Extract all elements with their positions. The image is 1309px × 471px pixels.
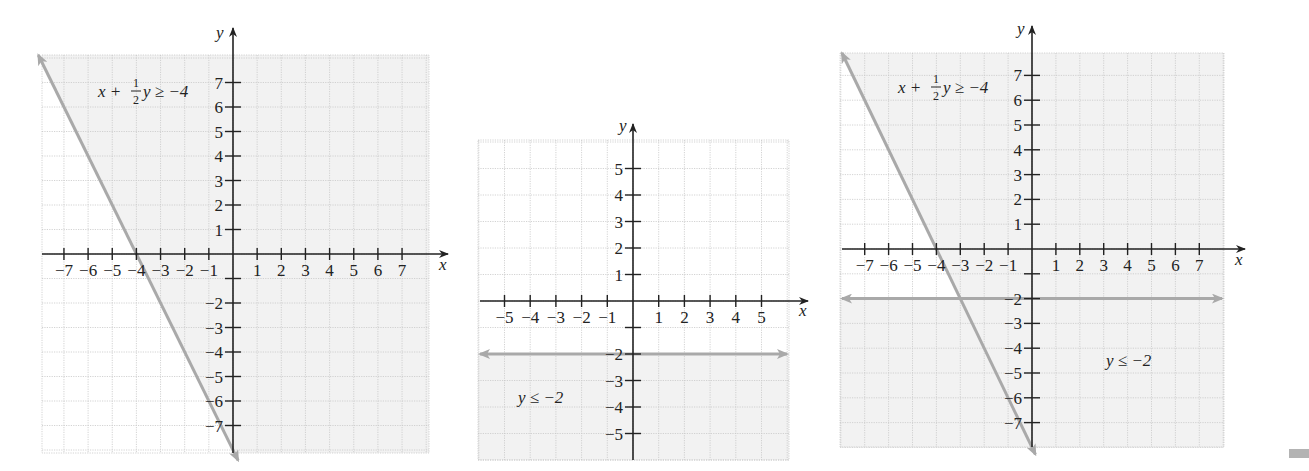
svg-text:−4: −4 <box>127 261 146 280</box>
svg-text:−4: −4 <box>205 343 224 362</box>
svg-text:−3: −3 <box>152 261 170 280</box>
svg-text:1: 1 <box>654 308 663 327</box>
svg-text:−4: −4 <box>605 398 624 417</box>
svg-text:−5: −5 <box>605 425 623 444</box>
svg-text:5: 5 <box>615 160 624 179</box>
g1-label-frac-den: 2 <box>133 93 139 107</box>
svg-text:5: 5 <box>1147 256 1156 275</box>
svg-text:−2: −2 <box>573 308 591 327</box>
svg-text:−7: −7 <box>55 261 74 280</box>
svg-text:6: 6 <box>1014 91 1023 110</box>
svg-text:7: 7 <box>1195 256 1204 275</box>
svg-text:−5: −5 <box>903 256 921 275</box>
svg-text:3: 3 <box>301 261 310 280</box>
g1-label-tail: y ≥ −4 <box>141 82 189 101</box>
svg-text:5: 5 <box>1014 116 1023 135</box>
svg-text:6: 6 <box>1171 256 1180 275</box>
svg-text:−5: −5 <box>103 261 121 280</box>
g2-x-axis-label: x <box>798 301 807 320</box>
svg-text:−6: −6 <box>205 392 223 411</box>
svg-text:−4: −4 <box>521 308 540 327</box>
g1-label-frac-num: 1 <box>133 76 139 90</box>
svg-text:3: 3 <box>706 308 715 327</box>
svg-text:1: 1 <box>215 221 224 240</box>
svg-text:−2: −2 <box>605 345 623 364</box>
svg-text:4: 4 <box>1014 141 1023 160</box>
svg-text:7: 7 <box>398 261 407 280</box>
svg-text:−3: −3 <box>205 319 223 338</box>
svg-text:2: 2 <box>215 196 224 215</box>
g1-x-axis-label: x <box>438 255 447 274</box>
g2-inequality-label: y ≤ −2 <box>516 388 564 407</box>
svg-text:4: 4 <box>215 147 224 166</box>
svg-text:4: 4 <box>615 186 624 205</box>
svg-text:−5: −5 <box>205 368 223 387</box>
svg-text:−1: −1 <box>999 256 1017 275</box>
svg-text:4: 4 <box>1123 256 1132 275</box>
svg-text:5: 5 <box>215 123 224 142</box>
g1-y-axis-label: y <box>214 23 224 42</box>
g3-inequality-label-2: y ≤ −2 <box>1104 351 1152 370</box>
g2-y-axis-label: y <box>617 116 627 135</box>
svg-text:1: 1 <box>1052 256 1061 275</box>
svg-text:−4: −4 <box>927 256 946 275</box>
svg-text:−7: −7 <box>1004 414 1023 433</box>
svg-text:4: 4 <box>732 308 741 327</box>
svg-text:−5: −5 <box>495 308 513 327</box>
svg-text:5: 5 <box>757 308 766 327</box>
svg-text:6: 6 <box>374 261 383 280</box>
svg-text:−1: −1 <box>598 308 616 327</box>
g1-label-main: x + <box>97 82 121 101</box>
svg-text:7: 7 <box>215 74 224 93</box>
svg-text:3: 3 <box>1099 256 1108 275</box>
svg-text:−2: −2 <box>205 294 223 313</box>
svg-text:1: 1 <box>615 266 624 285</box>
svg-text:4: 4 <box>325 261 334 280</box>
svg-text:7: 7 <box>1014 66 1023 85</box>
svg-text:6: 6 <box>215 98 224 117</box>
svg-text:2: 2 <box>277 261 286 280</box>
g3-label-main: x + <box>897 78 921 97</box>
svg-text:−6: −6 <box>79 261 97 280</box>
g3-y-axis-label: y <box>1015 19 1025 38</box>
svg-text:−6: −6 <box>1004 389 1022 408</box>
svg-text:3: 3 <box>215 172 224 191</box>
svg-text:−3: −3 <box>951 256 969 275</box>
svg-text:−3: −3 <box>1004 314 1022 333</box>
svg-text:−3: −3 <box>605 372 623 391</box>
graph-inequality-2: −5−4−3−2−11234554321−2−3−4−5 <box>478 124 808 460</box>
svg-text:−7: −7 <box>205 417 224 436</box>
svg-text:1: 1 <box>1014 215 1023 234</box>
svg-text:−2: −2 <box>176 261 194 280</box>
svg-text:−5: −5 <box>1004 364 1022 383</box>
svg-text:2: 2 <box>1076 256 1085 275</box>
svg-text:−1: −1 <box>200 261 218 280</box>
svg-text:5: 5 <box>350 261 359 280</box>
g3-label-tail: y ≥ −4 <box>941 78 989 97</box>
g3-x-axis-label: x <box>1234 250 1243 269</box>
g3-label-frac-den: 2 <box>933 89 939 103</box>
svg-text:−6: −6 <box>880 256 898 275</box>
corner-badge <box>1289 449 1309 458</box>
g3-label-frac-num: 1 <box>933 72 939 86</box>
svg-text:−3: −3 <box>547 308 565 327</box>
svg-text:1: 1 <box>253 261 262 280</box>
svg-text:−7: −7 <box>856 256 875 275</box>
svg-text:2: 2 <box>615 239 624 258</box>
svg-text:2: 2 <box>680 308 689 327</box>
svg-text:3: 3 <box>615 213 624 232</box>
svg-text:3: 3 <box>1014 166 1023 185</box>
svg-text:−2: −2 <box>1004 290 1022 309</box>
svg-text:−4: −4 <box>1004 339 1023 358</box>
svg-text:2: 2 <box>1014 190 1023 209</box>
svg-text:−2: −2 <box>975 256 993 275</box>
